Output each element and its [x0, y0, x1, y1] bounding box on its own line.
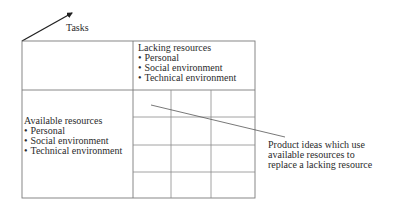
lacking-item-label: Technical environment — [145, 72, 237, 83]
lacking-resources-block: Lacking resources •Personal •Social envi… — [138, 42, 237, 83]
lacking-item: •Technical environment — [138, 72, 237, 83]
bullet-icon: • — [138, 72, 142, 83]
idea-grid — [133, 90, 255, 198]
available-item-label: Technical environment — [31, 145, 123, 156]
available-resources-block: Available resources •Personal •Social en… — [24, 115, 123, 156]
tasks-label: Tasks — [66, 22, 89, 33]
tasks-arrow — [22, 13, 72, 41]
annotation-block: Product ideas which use available resour… — [268, 139, 373, 170]
available-item: •Technical environment — [24, 145, 123, 156]
annotation-line: replace a lacking resource — [268, 159, 373, 170]
resource-matrix-diagram: Tasks Lacking resources •Personal •Socia… — [0, 0, 400, 206]
bullet-icon: • — [24, 145, 28, 156]
